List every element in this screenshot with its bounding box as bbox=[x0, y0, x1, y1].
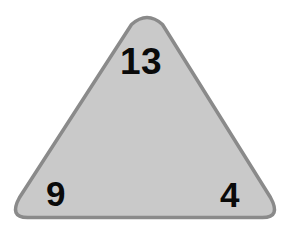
figure-canvas: 13 9 4 bbox=[0, 0, 287, 229]
triangle-label-bottom-left: 9 bbox=[46, 176, 66, 211]
triangle-shape bbox=[0, 0, 287, 229]
triangle-label-top: 13 bbox=[120, 43, 162, 80]
triangle-label-bottom-right: 4 bbox=[220, 177, 240, 212]
